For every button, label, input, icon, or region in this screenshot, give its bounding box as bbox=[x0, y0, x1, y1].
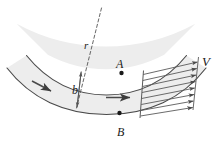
label-point-a: A bbox=[116, 58, 123, 70]
label-radius: r bbox=[84, 40, 88, 51]
point-a-dot bbox=[119, 71, 123, 75]
label-width: b bbox=[72, 84, 78, 96]
figure-canvas: A B r b V bbox=[0, 0, 223, 144]
point-b-dot bbox=[117, 111, 121, 115]
channel-band bbox=[17, 23, 195, 69]
label-velocity: V bbox=[202, 55, 210, 68]
wall-extension bbox=[187, 41, 199, 56]
label-point-b: B bbox=[117, 126, 124, 138]
curved-channel-diagram bbox=[0, 0, 223, 144]
